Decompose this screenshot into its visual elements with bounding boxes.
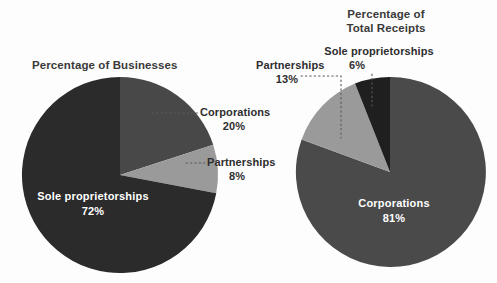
right-inner-label-corporations: Corporations 81%: [336, 196, 452, 225]
left-inner-label-sole-proprietorships: Sole proprietorships 72%: [23, 189, 163, 218]
right-chart-title: Percentage of Total Receipts: [330, 8, 442, 35]
left-callout-partnerships-value: 8%: [207, 169, 279, 183]
left-callout-corporations-name: Corporations: [200, 105, 274, 119]
left-callout-corporations-value: 20%: [200, 119, 274, 133]
left-inner-label-name: Sole proprietorships: [37, 190, 149, 202]
pie-chart-graphics: [0, 0, 497, 283]
right-inner-label-value: 81%: [336, 211, 452, 226]
left-inner-label-value: 72%: [23, 204, 163, 219]
left-callout-partnerships: Partnerships 8%: [207, 155, 279, 183]
right-callout-sole-proprietorships-name: Sole proprietorships: [318, 44, 440, 58]
left-callout-partnerships-name: Partnerships: [207, 155, 279, 169]
left-chart-title: Percentage of Businesses: [32, 59, 212, 73]
right-inner-label-name: Corporations: [358, 197, 429, 209]
left-callout-corporations: Corporations 20%: [200, 105, 274, 133]
right-callout-partnerships-name: Partnerships: [256, 58, 340, 72]
right-callout-partnerships-value: 13%: [256, 72, 340, 86]
two-pie-chart-figure: Percentage of Businesses Percentage of T…: [0, 0, 497, 283]
right-callout-partnerships: Partnerships 13%: [256, 58, 340, 86]
